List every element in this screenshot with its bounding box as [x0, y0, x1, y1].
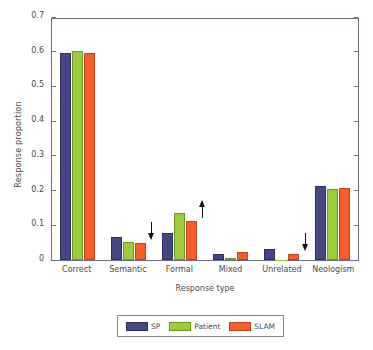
legend-item-sp[interactable]: SP: [126, 322, 160, 331]
bar-slam-unrelated: [288, 254, 299, 260]
y-tick-label: 0.2: [8, 185, 50, 194]
x-axis-tick-labels: CorrectSemanticFormalMixedUnrelatedNeolo…: [51, 265, 359, 274]
bar-slam-formal: [186, 221, 197, 260]
bar-patient-mixed: [225, 258, 236, 260]
y-tick-mark-right: [354, 17, 358, 18]
bar-group: [154, 19, 205, 260]
x-tick-label-correct: Correct: [51, 265, 102, 274]
bar-sp-neologism: [315, 186, 326, 260]
bar-patient-correct: [72, 51, 83, 260]
legend-label-sp: SP: [151, 322, 160, 331]
y-tick-label: 0.3: [8, 150, 50, 159]
plot-area: 00.10.20.30.40.50.60.7: [51, 18, 359, 261]
arrow-down-icon: [301, 233, 311, 251]
x-tick-label-unrelated: Unrelated: [256, 265, 307, 274]
legend-label-patient: Patient: [194, 322, 220, 331]
bar-slam-correct: [84, 53, 95, 260]
bar-sp-mixed: [213, 254, 224, 260]
x-tick-label-mixed: Mixed: [205, 265, 256, 274]
legend-label-slam: SLAM: [254, 322, 275, 331]
bar-sp-formal: [162, 233, 173, 260]
bar-slam-semantic: [135, 243, 146, 260]
x-tick-label-semantic: Semantic: [102, 265, 153, 274]
y-tick-label: 0.7: [8, 11, 50, 20]
bar-slam-neologism: [339, 188, 350, 260]
bar-slam-mixed: [237, 252, 248, 260]
bar-sp-correct: [60, 53, 71, 260]
legend-swatch-patient: [169, 322, 191, 331]
y-tick-label: 0.1: [8, 219, 50, 228]
chart-legend: SPPatientSLAM: [117, 315, 284, 337]
y-tick-label: 0.6: [8, 46, 50, 55]
bar-sp-semantic: [111, 237, 122, 260]
bar-patient-formal: [174, 213, 185, 260]
x-tick-label-formal: Formal: [154, 265, 205, 274]
bar-group: [307, 19, 358, 260]
legend-swatch-slam: [229, 322, 251, 331]
bar-patient-semantic: [123, 242, 134, 260]
bar-groups: [52, 19, 358, 260]
bar-patient-neologism: [327, 189, 338, 260]
legend-item-patient[interactable]: Patient: [169, 322, 220, 331]
bar-sp-unrelated: [264, 249, 275, 260]
bar-group: [52, 19, 103, 260]
bar-chart-figure: Response proportion 00.10.20.30.40.50.60…: [0, 0, 373, 350]
legend-item-slam[interactable]: SLAM: [229, 322, 275, 331]
bar-group: [256, 19, 307, 260]
legend-swatch-sp: [126, 322, 148, 331]
arrow-down-icon: [147, 222, 157, 240]
x-tick-label-neologism: Neologism: [308, 265, 359, 274]
y-tick-mark: [52, 17, 56, 18]
arrow-up-icon: [198, 200, 208, 218]
bar-group: [205, 19, 256, 260]
y-tick-label: 0.4: [8, 115, 50, 124]
y-tick-label: 0.5: [8, 80, 50, 89]
y-tick-label: 0: [8, 254, 50, 263]
x-axis-label: Response type: [51, 284, 359, 293]
